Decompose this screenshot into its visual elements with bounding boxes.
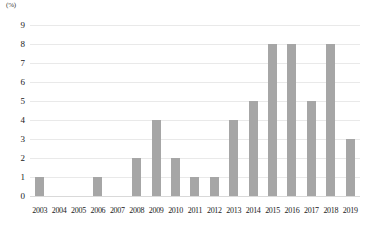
bar-slot [243,25,262,196]
x-axis-tick-slot: 2004 [49,199,68,217]
bar [35,177,44,196]
x-axis-tick-label: 2010 [168,206,183,215]
x-axis-tick-label: 2016 [285,206,300,215]
x-axis-tick-slot: 2006 [88,199,107,217]
x-axis-tick-slot: 2011 [185,199,204,217]
x-axis-tick-slot: 2018 [321,199,340,217]
bar [152,120,161,196]
x-axis-tick-label: 2008 [129,206,144,215]
x-axis-tick-slot: 2007 [108,199,127,217]
x-axis-tick-label: 2017 [304,206,319,215]
x-axis-tick-label: 2015 [265,206,280,215]
bar-slot [166,25,185,196]
y-axis-tick-label: 5 [21,97,26,106]
bar-slot [146,25,165,196]
bar [249,101,258,196]
x-axis-tick-labels: 2003200420052006200720082009201020112012… [30,199,360,217]
y-axis-tick-label: 8 [21,40,26,49]
x-axis-tick-slot: 2008 [127,199,146,217]
x-axis-tick-slot: 2009 [146,199,165,217]
bar-slot [88,25,107,196]
y-axis-tick-label: 9 [21,21,26,30]
bar-slot [49,25,68,196]
x-axis-tick-slot: 2012 [205,199,224,217]
x-axis-tick-slot: 2013 [224,199,243,217]
y-axis-tick-label: 2 [21,154,26,163]
x-axis-tick-label: 2005 [71,206,86,215]
x-axis-tick-slot: 2015 [263,199,282,217]
y-axis-tick-label: 1 [21,173,26,182]
x-axis-tick-slot: 2005 [69,199,88,217]
bar [307,101,316,196]
bars-group [30,25,360,196]
bar-slot [30,25,49,196]
x-axis-tick-label: 2014 [246,206,261,215]
x-axis-tick-slot: 2016 [282,199,301,217]
x-axis-tick-slot: 2003 [30,199,49,217]
bar [190,177,199,196]
x-axis-tick-label: 2003 [32,206,47,215]
bar [268,44,277,196]
bar-slot [108,25,127,196]
y-axis-tick-label: 3 [21,135,26,144]
x-axis-tick-slot: 2010 [166,199,185,217]
bar [287,44,296,196]
bar-chart-figure: (%) 9876543210 2003200420052006200720082… [0,0,366,226]
bar [229,120,238,196]
x-axis-tick-label: 2007 [110,206,125,215]
bar-slot [224,25,243,196]
bar [326,44,335,196]
x-axis-tick-slot: 2019 [341,199,360,217]
x-axis-tick-label: 2013 [226,206,241,215]
y-axis-tick-label: 0 [21,192,26,201]
y-axis-tick-label: 7 [21,59,26,68]
bar-slot [341,25,360,196]
bar [171,158,180,196]
x-axis-tick-label: 2011 [188,206,203,215]
x-axis-tick-label: 2009 [149,206,164,215]
x-axis-tick-label: 2019 [343,206,358,215]
x-axis-tick-slot: 2017 [302,199,321,217]
x-axis-tick-label: 2018 [323,206,338,215]
bar [132,158,141,196]
y-axis-tick-label: 6 [21,78,26,87]
x-axis-tick-label: 2006 [91,206,106,215]
bar [346,139,355,196]
bar-slot [302,25,321,196]
bar-slot [127,25,146,196]
bar-slot [69,25,88,196]
plot-area: 9876543210 [30,25,360,196]
y-axis-unit-label: (%) [6,1,16,10]
bar-slot [321,25,340,196]
x-axis-tick-label: 2012 [207,206,222,215]
bar [93,177,102,196]
gridline [30,196,360,197]
bar-slot [263,25,282,196]
bar-slot [185,25,204,196]
x-axis-tick-slot: 2014 [243,199,262,217]
bar-slot [205,25,224,196]
x-axis-tick-label: 2004 [52,206,67,215]
y-axis-tick-label: 4 [21,116,26,125]
bar [210,177,219,196]
bar-slot [282,25,301,196]
